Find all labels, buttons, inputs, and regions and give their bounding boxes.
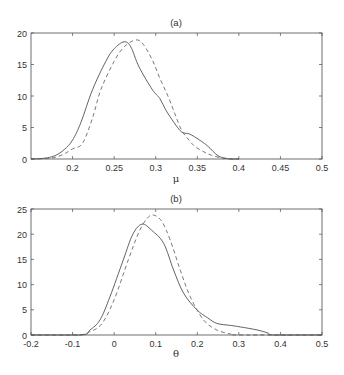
y-tick-label: 25 <box>17 205 27 215</box>
y-tick-label: 0 <box>22 155 27 165</box>
x-tick-label: 0.4 <box>274 339 287 349</box>
y-tick-label: 20 <box>17 230 27 240</box>
x-tick-label: 0.2 <box>191 339 204 349</box>
panel-b-ticks <box>31 209 322 335</box>
panel-a-axes-box <box>31 33 322 159</box>
x-tick-label: 0.1 <box>149 339 162 349</box>
y-tick-label: 5 <box>22 305 27 315</box>
y-tick-label: 10 <box>17 280 27 290</box>
panel-b: (b) -0.2-0.100.10.20.30.40.50510152025 θ <box>17 193 328 359</box>
panel-a-xlabel: μ <box>173 173 180 184</box>
x-tick-label: 0.4 <box>233 163 246 173</box>
x-tick-label: 0.35 <box>189 163 207 173</box>
x-tick-label: 0.25 <box>105 163 123 173</box>
x-tick-label: 0.5 <box>316 163 329 173</box>
y-tick-label: 15 <box>17 60 27 70</box>
x-tick-label: 0.45 <box>272 163 290 173</box>
figure: (a) 0.20.250.30.350.40.450.505101520 μ (… <box>0 0 344 375</box>
panel-a-ticks <box>31 33 322 159</box>
panel-b-dashed-curve <box>31 215 322 335</box>
x-tick-label: 0.3 <box>233 339 246 349</box>
y-tick-label: 15 <box>17 255 27 265</box>
x-tick-label: 0 <box>112 339 117 349</box>
panel-b-axes-box <box>31 209 322 335</box>
x-tick-label: 0.2 <box>66 163 79 173</box>
x-tick-label: -0.1 <box>65 339 81 349</box>
y-tick-label: 0 <box>22 331 27 341</box>
panel-b-xlabel: θ <box>173 348 179 359</box>
panel-a-solid-curve <box>31 42 239 159</box>
panel-b-title: (b) <box>170 193 182 204</box>
x-tick-label: 0.3 <box>149 163 162 173</box>
panel-a-title: (a) <box>170 17 182 28</box>
panel-b-solid-curve <box>31 224 322 335</box>
y-tick-label: 20 <box>17 29 27 39</box>
panel-a-tick-labels: 0.20.250.30.350.40.450.505101520 <box>17 29 328 174</box>
x-tick-label: -0.2 <box>23 339 39 349</box>
panel-b-tick-labels: -0.2-0.100.10.20.30.40.50510152025 <box>17 205 328 350</box>
y-tick-label: 5 <box>22 123 27 133</box>
x-tick-label: 0.5 <box>316 339 329 349</box>
y-tick-label: 10 <box>17 92 27 102</box>
panel-a: (a) 0.20.250.30.350.40.450.505101520 μ <box>17 17 328 184</box>
